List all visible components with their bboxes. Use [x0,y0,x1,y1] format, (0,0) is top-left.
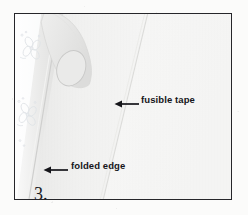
illustration-frame: fusible tape folded edge 3. [14,13,232,200]
illustration-page: fusible tape folded edge 3. [0,0,248,215]
step-number: 3. [34,185,48,200]
label-folded-edge: folded edge [71,160,125,171]
left-arrow-icon [114,99,140,109]
left-arrow-icon [43,165,69,175]
label-fusible-tape: fusible tape [141,94,195,105]
